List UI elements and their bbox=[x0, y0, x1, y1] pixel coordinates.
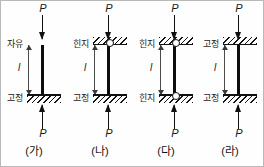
dimension-line bbox=[28, 45, 29, 95]
support-label-top: 고정 bbox=[203, 37, 219, 50]
load-arrow-bottom-icon bbox=[174, 105, 175, 129]
support-label-top: 자유 bbox=[7, 37, 23, 50]
case-caption: (나) bbox=[67, 142, 133, 158]
hinge-pin-top-icon bbox=[172, 39, 180, 47]
support-label-bottom: 고정 bbox=[73, 91, 89, 104]
support-label-top: 힌지 bbox=[139, 37, 155, 50]
support-fixed-bottom-icon bbox=[223, 94, 257, 103]
load-label-top: P bbox=[37, 2, 49, 14]
support-fixed-bottom-icon bbox=[93, 94, 127, 103]
case-diagram-1: P 자유 l 고정 P (가) bbox=[1, 1, 67, 166]
support-label-bottom: 고정 bbox=[7, 91, 23, 104]
case-diagram-2: P 힌지 l 고정 P (나) bbox=[67, 1, 133, 166]
case-caption: (다) bbox=[133, 142, 199, 158]
case-caption: (라) bbox=[197, 142, 263, 158]
support-label-top: 힌지 bbox=[73, 37, 89, 50]
column-member bbox=[173, 45, 176, 95]
load-arrow-bottom-icon bbox=[108, 105, 109, 129]
support-fixed-bottom-icon bbox=[27, 94, 61, 103]
column-member bbox=[107, 45, 110, 95]
column-member bbox=[237, 45, 240, 95]
load-label-bottom: P bbox=[233, 127, 245, 139]
load-label-top: P bbox=[233, 2, 245, 14]
dimension-line bbox=[94, 45, 95, 95]
load-label-top: P bbox=[169, 2, 181, 14]
support-label-bottom: 고정 bbox=[203, 91, 219, 104]
hinge-pin-top-icon bbox=[106, 39, 114, 47]
column-member bbox=[41, 45, 44, 95]
hinge-pin-bottom-icon bbox=[172, 92, 180, 100]
column-buckling-figure: P 자유 l 고정 P (가) P 힌지 l 고정 P (나) bbox=[0, 0, 264, 167]
case-diagram-3: P 힌지 l 힌지 P (다) bbox=[133, 1, 199, 166]
load-arrow-top-icon bbox=[42, 15, 43, 39]
length-label: l bbox=[150, 62, 152, 73]
load-label-bottom: P bbox=[37, 127, 49, 139]
length-label: l bbox=[84, 62, 86, 73]
case-diagram-4: P 고정 l 고정 P (라) bbox=[197, 1, 263, 166]
case-caption: (가) bbox=[1, 142, 67, 158]
dimension-line bbox=[224, 45, 225, 95]
load-label-bottom: P bbox=[103, 127, 115, 139]
length-label: l bbox=[214, 62, 216, 73]
load-arrow-bottom-icon bbox=[238, 105, 239, 129]
support-label-bottom: 힌지 bbox=[139, 91, 155, 104]
load-arrow-bottom-icon bbox=[42, 105, 43, 129]
load-label-bottom: P bbox=[169, 127, 181, 139]
dimension-line bbox=[160, 45, 161, 95]
support-fixed-top-icon bbox=[223, 36, 257, 45]
length-label: l bbox=[18, 62, 20, 73]
load-label-top: P bbox=[103, 2, 115, 14]
